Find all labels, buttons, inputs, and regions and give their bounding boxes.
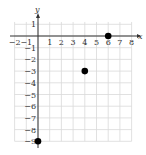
- y-tick-label: −2: [24, 55, 36, 64]
- y-tick-label: −5: [24, 91, 36, 100]
- y-axis-label: y: [34, 5, 40, 14]
- x-tick-label: 5: [94, 38, 99, 47]
- x-tick-label: 7: [117, 38, 122, 47]
- x-tick-label: 3: [71, 38, 76, 47]
- y-tick-label: −4: [24, 79, 36, 88]
- tick-labels: −2−1123456781−1−2−3−4−5−6−7−8−9: [9, 20, 134, 146]
- y-tick-label: 1: [31, 20, 36, 29]
- y-tick-label: −7: [24, 114, 36, 123]
- x-tick-label: 6: [106, 38, 111, 47]
- x-axis-label: x: [138, 32, 143, 41]
- y-tick-label: −3: [24, 67, 36, 76]
- x-tick-label: 2: [59, 38, 64, 47]
- y-tick-label: −9: [24, 137, 36, 146]
- data-point: [35, 138, 42, 145]
- coordinate-plane: −2−1123456781−1−2−3−4−5−6−7−8−9 x y: [0, 0, 146, 155]
- x-tick-label: 8: [129, 38, 134, 47]
- y-tick-label: −1: [24, 44, 36, 53]
- x-tick-label: 1: [47, 38, 52, 47]
- data-point: [82, 68, 89, 75]
- y-tick-label: −8: [24, 126, 36, 135]
- x-tick-label: −2: [9, 38, 21, 47]
- x-tick-label: 4: [82, 38, 87, 47]
- data-point: [105, 33, 112, 40]
- y-tick-label: −6: [24, 102, 36, 111]
